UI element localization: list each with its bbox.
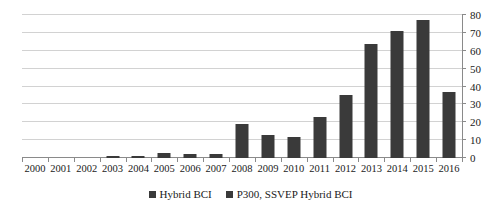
bar-slot [151, 15, 177, 158]
y-axis-tick [462, 32, 466, 33]
legend-swatch-icon [149, 191, 156, 198]
chart-legend: Hybrid BCIP300, SSVEP Hybrid BCI [0, 188, 501, 200]
y-axis-label: 80 [470, 10, 481, 21]
x-axis-label: 2009 [257, 163, 278, 175]
bar[interactable] [365, 44, 378, 158]
legend-label: P300, SSVEP Hybrid BCI [237, 188, 353, 200]
x-axis-tick [22, 158, 23, 162]
legend-label: Hybrid BCI [160, 188, 212, 200]
bar[interactable] [287, 137, 300, 158]
x-axis-label: 2014 [387, 163, 408, 175]
x-axis-label: 2015 [413, 163, 434, 175]
legend-swatch-icon [226, 191, 233, 198]
x-axis-label: 2004 [128, 163, 149, 175]
bar[interactable] [261, 135, 274, 158]
x-axis-tick [436, 158, 437, 162]
bar-slot [203, 15, 229, 158]
bar[interactable] [235, 124, 248, 158]
y-axis-tick [462, 86, 466, 87]
plot-area [22, 15, 462, 158]
x-axis-tick [281, 158, 282, 162]
bar-slot [410, 15, 436, 158]
x-axis-tick [177, 158, 178, 162]
legend-item[interactable]: Hybrid BCI [149, 188, 212, 200]
x-axis-tick [358, 158, 359, 162]
y-axis: 01020304050607080 [462, 15, 501, 158]
bar-slot [48, 15, 74, 158]
x-axis-label: 2000 [24, 163, 45, 175]
bar-slot [177, 15, 203, 158]
bars-layer [22, 15, 462, 158]
y-axis-tick [462, 121, 466, 122]
y-axis-label: 30 [470, 99, 481, 110]
bar[interactable] [339, 95, 352, 158]
bar-slot [436, 15, 462, 158]
x-axis-label: 2005 [154, 163, 175, 175]
x-axis-label: 2002 [76, 163, 97, 175]
bar[interactable] [391, 31, 404, 158]
y-axis-tick [462, 103, 466, 104]
x-axis-label: 2001 [50, 163, 71, 175]
x-axis-tick [151, 158, 152, 162]
bar-chart: 01020304050607080 2000200120022003200420… [0, 0, 501, 213]
x-axis-tick [100, 158, 101, 162]
bar-slot [229, 15, 255, 158]
x-axis-label: 2003 [102, 163, 123, 175]
x-axis-tick [410, 158, 411, 162]
bar-slot [333, 15, 359, 158]
x-axis-tick [462, 158, 463, 162]
bar-slot [358, 15, 384, 158]
x-axis-label: 2008 [232, 163, 253, 175]
y-axis-tick [462, 139, 466, 140]
bar-slot [74, 15, 100, 158]
y-axis-tick [462, 50, 466, 51]
y-axis-label: 50 [470, 63, 481, 74]
y-axis-tick [462, 14, 466, 15]
x-axis-tick [255, 158, 256, 162]
y-axis-label: 10 [470, 135, 481, 146]
bar[interactable] [443, 92, 456, 158]
bar-slot [126, 15, 152, 158]
bar-slot [255, 15, 281, 158]
x-axis-label: 2016 [439, 163, 460, 175]
x-axis-label: 2010 [283, 163, 304, 175]
x-axis-label: 2013 [361, 163, 382, 175]
bar-slot [281, 15, 307, 158]
bar-slot [384, 15, 410, 158]
x-axis-tick [229, 158, 230, 162]
x-axis-label: 2007 [206, 163, 227, 175]
y-axis-label: 0 [470, 153, 476, 164]
bar-slot [100, 15, 126, 158]
x-axis-tick [307, 158, 308, 162]
x-axis-tick [333, 158, 334, 162]
y-axis-label: 20 [470, 117, 481, 128]
y-axis-line [462, 14, 463, 159]
bar[interactable] [417, 20, 430, 158]
x-axis-label: 2006 [180, 163, 201, 175]
y-axis-tick [462, 68, 466, 69]
x-axis-tick [48, 158, 49, 162]
x-axis-tick [384, 158, 385, 162]
x-axis: 2000200120022003200420052006200720082009… [22, 158, 462, 180]
y-axis-label: 40 [470, 81, 481, 92]
x-axis-label: 2011 [309, 163, 330, 175]
legend-item[interactable]: P300, SSVEP Hybrid BCI [226, 188, 353, 200]
bar[interactable] [313, 117, 326, 158]
bar-slot [22, 15, 48, 158]
x-axis-tick [74, 158, 75, 162]
x-axis-label: 2012 [335, 163, 356, 175]
bar-slot [307, 15, 333, 158]
x-axis-tick [126, 158, 127, 162]
x-axis-tick [203, 158, 204, 162]
y-axis-label: 70 [470, 27, 481, 38]
y-axis-label: 60 [470, 45, 481, 56]
